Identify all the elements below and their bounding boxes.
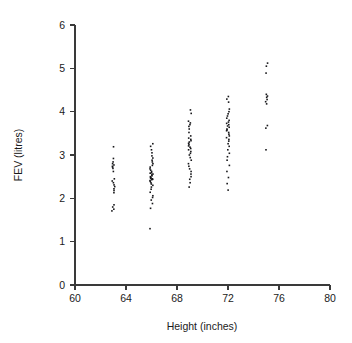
data-point [188,163,190,165]
data-point [265,127,267,129]
data-point [228,139,230,141]
data-point [190,152,192,154]
data-point [226,117,228,119]
data-point [229,135,231,137]
data-point [229,108,231,110]
data-point [228,126,230,128]
y-tick-label: 5 [59,62,65,74]
data-point [228,111,230,113]
data-point [228,140,230,142]
data-point [113,171,115,173]
data-point [152,197,154,199]
data-point [189,154,191,156]
data-point [149,191,151,193]
data-point [152,143,154,145]
data-point [150,188,152,190]
data-point [226,159,228,161]
data-point [188,120,190,122]
data-point [190,140,192,142]
data-point [190,148,192,150]
data-point [189,168,191,170]
data-point [152,185,154,187]
data-point [112,161,114,163]
data-point [150,199,152,201]
data-point [188,132,190,134]
fev-height-scatter-figure: 0123456 606468727680 Height (inches) FEV… [0,0,352,343]
data-point [152,163,154,165]
data-point [227,113,229,115]
data-point [149,228,151,230]
data-point [226,129,228,131]
data-point [152,157,154,159]
data-point [267,95,269,97]
data-point [149,166,151,168]
data-point [190,159,192,161]
data-point [189,178,191,180]
data-point [228,120,230,122]
data-point [266,65,268,67]
y-tick-label: 0 [59,279,65,291]
data-point [152,161,154,163]
data-point [190,122,192,124]
data-point [228,133,230,135]
x-axis-ticks: 606468727680 [69,285,336,304]
data-point [151,179,153,181]
y-tick-label: 4 [59,105,65,117]
data-point [190,151,192,153]
data-point [150,146,152,148]
data-point [151,183,153,185]
x-tick-label: 64 [120,292,132,304]
data-point [188,126,190,128]
data-point [229,165,231,167]
data-point [188,186,190,188]
y-tick-label: 1 [59,235,65,247]
data-point [151,186,153,188]
data-points-group [111,62,268,229]
data-point [113,182,115,184]
data-point [228,146,230,148]
data-point [190,173,192,175]
data-point [226,137,228,139]
data-point [227,143,229,145]
data-point [188,145,190,147]
data-point [190,109,192,111]
data-point [227,189,229,191]
data-point [265,149,267,151]
data-point [227,156,229,158]
data-point [227,115,229,117]
data-point [152,195,154,197]
data-point [114,178,116,180]
axis-group [75,25,330,285]
data-point [149,172,151,174]
data-point [150,208,152,210]
data-point [190,171,192,173]
data-point [113,192,115,194]
data-point [190,113,192,115]
data-point [113,184,115,186]
data-point [113,208,115,210]
x-tick-label: 60 [69,292,81,304]
data-point [113,158,115,160]
data-point [112,168,114,170]
x-tick-label: 72 [222,292,234,304]
data-point [151,159,153,161]
data-point [265,72,267,74]
x-axis-title: Height (inches) [167,320,238,332]
data-point [151,152,153,154]
y-axis-title: FEV (litres) [12,129,24,182]
data-point [188,165,190,167]
data-point [113,190,115,192]
data-point [151,155,153,157]
data-point [111,210,113,212]
data-point [265,101,267,103]
data-point [226,98,228,100]
data-point [227,149,229,151]
data-point [266,94,268,96]
data-point [113,164,115,166]
data-point [190,176,192,178]
data-point [229,152,231,154]
data-point [226,183,228,185]
x-tick-label: 80 [324,292,336,304]
data-point [190,135,192,137]
data-point [228,101,230,103]
